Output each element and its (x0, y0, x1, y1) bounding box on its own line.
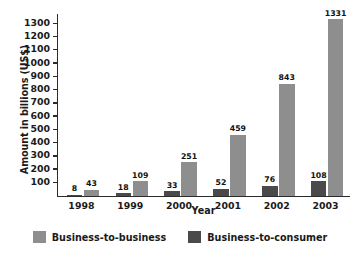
chart-legend: Business-to-businessBusiness-to-consumer (0, 231, 360, 243)
y-axis-tick-mark (53, 36, 58, 37)
bar-value-label: 251 (176, 152, 202, 161)
bar-value-label: 109 (128, 171, 154, 180)
legend-color-swatch (33, 231, 46, 243)
y-axis-tick-mark (53, 155, 58, 156)
x-axis-spine (57, 196, 350, 197)
x-axis-title: Year (57, 205, 350, 216)
bar-value-label: 43 (79, 179, 105, 188)
y-axis-tick-label: 700 (30, 96, 50, 107)
legend-entry: Business-to-consumer (188, 231, 327, 243)
y-axis-tick-mark (53, 182, 58, 183)
y-axis-tick-label: 1000 (24, 57, 50, 68)
y-axis-tick-label: 500 (30, 123, 50, 134)
bar (181, 162, 197, 195)
bar-value-label: 1331 (323, 9, 349, 18)
bar (67, 195, 83, 196)
bar (164, 191, 180, 195)
y-axis-tick-label: 900 (30, 70, 50, 81)
bar (328, 19, 344, 195)
y-axis-tick-label: 1100 (24, 43, 50, 54)
y-axis-tick-mark (53, 23, 58, 24)
bar (262, 186, 278, 196)
bar-group: 33251 (164, 15, 197, 195)
bar (279, 84, 295, 196)
bar-group: 52459 (213, 15, 246, 195)
bar-group: 18109 (116, 15, 149, 195)
y-axis-tick-mark (53, 102, 58, 103)
bar (84, 190, 100, 196)
y-axis-tick-label: 100 (30, 176, 50, 187)
legend-label: Business-to-consumer (207, 232, 327, 243)
y-axis-tick-mark (53, 49, 58, 50)
y-axis-tick-label: 800 (30, 83, 50, 94)
bar (230, 135, 246, 196)
y-axis-tick-label: 400 (30, 136, 50, 147)
bar-group: 76843 (262, 15, 295, 195)
plot-area: 1002003004005006007008009001000110012001… (57, 14, 350, 197)
y-axis-tick-mark (53, 129, 58, 130)
bar-chart-figure: Amount in billions (US$) 100200300400500… (0, 0, 360, 260)
y-axis-tick-label: 600 (30, 110, 50, 121)
legend-color-swatch (188, 231, 201, 243)
bar-group: 843 (67, 15, 100, 195)
y-axis-tick-label: 200 (30, 163, 50, 174)
bar (213, 189, 229, 196)
y-axis-spine (57, 14, 58, 197)
y-axis-tick-mark (53, 89, 58, 90)
y-axis-tick-mark (53, 76, 58, 77)
y-axis-tick-mark (53, 115, 58, 116)
bar-value-label: 843 (274, 73, 300, 82)
y-axis-tick-label: 1200 (24, 30, 50, 41)
legend-label: Business-to-business (52, 232, 167, 243)
y-axis-tick-label: 300 (30, 149, 50, 160)
bar (311, 181, 327, 195)
bar-value-label: 459 (225, 124, 251, 133)
bar (116, 193, 132, 195)
y-axis-tick-mark (53, 168, 58, 169)
y-axis-tick-mark (53, 62, 58, 63)
legend-entry: Business-to-business (33, 231, 167, 243)
y-axis-tick-mark (53, 142, 58, 143)
bar-group: 1081331 (311, 15, 344, 195)
y-axis-tick-label: 1300 (24, 17, 50, 28)
bar (133, 181, 149, 195)
